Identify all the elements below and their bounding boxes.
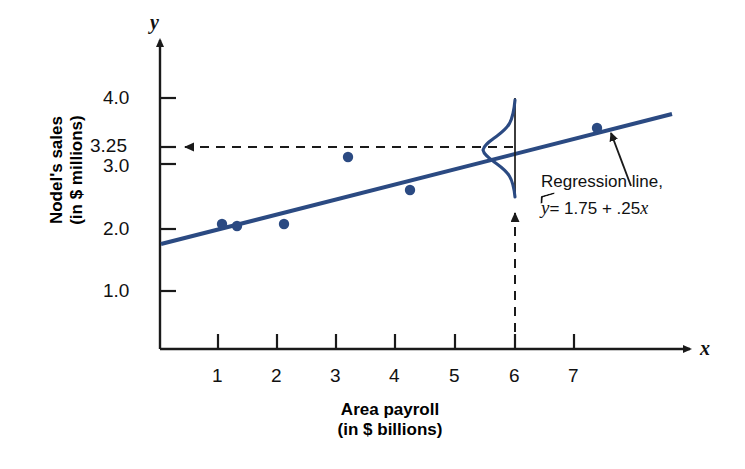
regression-annotation-equation: y= 1.75 + .25x (541, 196, 663, 220)
data-point (232, 221, 242, 231)
regression-line-annotation: Regression line, y= 1.75 + .25x (541, 172, 663, 220)
x-axis-ticks (218, 334, 574, 349)
x-tick-label-7: 7 (568, 366, 579, 385)
x-tick-label-1: 1 (212, 366, 223, 385)
y-tick-label-4-0: 4.0 (103, 88, 129, 107)
x-tick-label-5: 5 (449, 366, 460, 385)
regression-equation-x: x (640, 198, 648, 218)
normal-distribution-curve (483, 100, 515, 197)
regression-equation-body: = 1.75 + .25 (549, 199, 640, 218)
data-point (279, 219, 289, 229)
x-axis-variable-label: x (700, 338, 710, 358)
x-tick-label-3: 3 (330, 366, 341, 385)
data-point (405, 185, 415, 195)
y-axis-title-line1: Nodel's sales (47, 70, 67, 270)
y-axis-title-line2: (in $ millions) (67, 70, 87, 270)
x-tick-label-4: 4 (389, 366, 400, 385)
x-tick-label-2: 2 (271, 366, 282, 385)
y-tick-label-2-0: 2.0 (103, 219, 129, 238)
y-tick-label-3-0: 3.0 (103, 156, 129, 175)
regression-annotation-line1: Regression line, (541, 172, 663, 193)
data-point (592, 123, 602, 133)
data-point (217, 219, 227, 229)
y-tick-label-3-25: 3.25 (90, 136, 127, 155)
regression-chart-figure: y x 4.0 3.25 3.0 2.0 1.0 1 2 3 4 5 6 7 N… (0, 0, 745, 469)
y-tick-label-1-0: 1.0 (103, 281, 129, 300)
x-tick-label-6: 6 (509, 366, 520, 385)
x-axis-title: Area payroll (in $ billions) (290, 400, 490, 440)
x-axis-title-line2: (in $ billions) (290, 420, 490, 440)
x-axis-title-line1: Area payroll (290, 400, 490, 420)
y-axis-variable-label: y (150, 12, 159, 32)
y-axis-ticks (160, 98, 176, 291)
y-axis-title: Nodel's sales (in $ millions) (47, 70, 87, 270)
data-point (343, 152, 353, 162)
y-hat-symbol: y (541, 196, 549, 219)
